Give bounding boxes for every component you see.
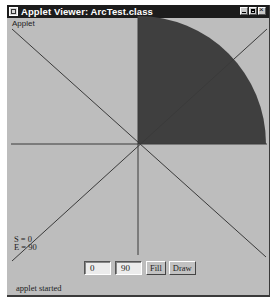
end-angle-readout: E = 90 (14, 243, 37, 251)
start-angle-input[interactable]: 0 (84, 261, 111, 275)
status-bar: applet started (16, 283, 62, 293)
draw-button[interactable]: Draw (169, 261, 196, 275)
end-angle-input[interactable]: 90 (115, 261, 142, 275)
fill-button[interactable]: Fill (146, 261, 166, 275)
filled-arc (138, 16, 266, 144)
applet-viewer-window: Applet Viewer: ArcTest.class Applet S = … (7, 5, 270, 297)
arc-canvas (7, 5, 270, 297)
control-panel: 0 90 Fill Draw (84, 261, 196, 275)
